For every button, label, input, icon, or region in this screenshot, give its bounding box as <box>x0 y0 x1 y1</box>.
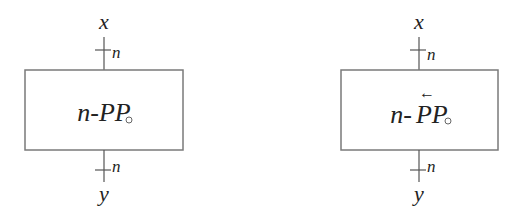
block-reverse: x n ← n-PP n y <box>341 9 498 206</box>
block-label-main: PP <box>98 98 131 127</box>
block-label-prefix: n- <box>77 98 99 127</box>
input-width-label: n <box>427 45 436 64</box>
block-label-prefix: n- <box>390 100 412 129</box>
block-label: n-PP <box>390 100 448 129</box>
block-forward: x n n-PP n y <box>25 9 183 206</box>
output-width-label: n <box>427 157 436 176</box>
block-label-main: PP <box>415 100 448 129</box>
input-width-label: n <box>112 43 121 62</box>
diagram: x n n-PP n y x n ← n-PP <box>0 0 526 211</box>
reverse-arrow-icon: ← <box>419 84 435 101</box>
input-label-x: x <box>413 9 424 34</box>
output-label-y: y <box>412 181 424 206</box>
output-width-label: n <box>112 157 121 176</box>
output-label-y: y <box>97 181 109 206</box>
input-label-x: x <box>98 9 109 34</box>
block-label: n-PP <box>77 98 131 127</box>
